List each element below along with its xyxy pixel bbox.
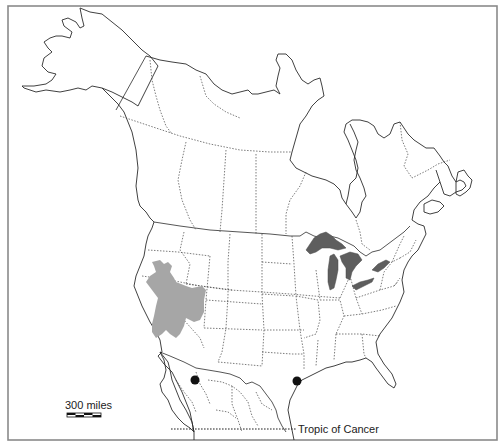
scale-bar-seg-2: [76, 415, 85, 417]
scale-bar-seg-3: [84, 413, 93, 415]
occurrence-point-chihuahua: [191, 376, 200, 385]
scale-bar-seg-1: [67, 413, 76, 415]
tropic-of-cancer-label: Tropic of Cancer: [298, 423, 379, 435]
map-frame: [8, 6, 497, 440]
scale-bar-seg-4: [93, 415, 102, 417]
occurrence-point-texas-coast: [293, 377, 302, 386]
scale-label: 300 miles: [65, 399, 113, 411]
range-map: Tropic of Cancer 300 miles: [0, 0, 504, 448]
